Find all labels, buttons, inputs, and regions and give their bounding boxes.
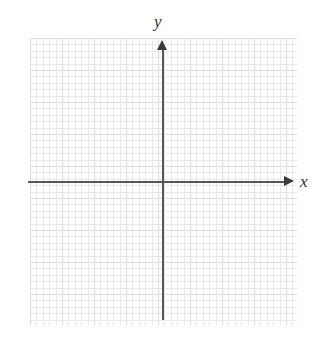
x-axis-line	[28, 181, 286, 183]
x-axis-label: x	[300, 173, 308, 190]
y-axis-label: y	[154, 13, 162, 30]
y-axis-line	[162, 48, 164, 320]
x-axis-arrow-icon	[284, 176, 294, 186]
coordinate-plane-figure: y x	[0, 0, 336, 342]
y-axis-arrow-icon	[157, 40, 167, 50]
